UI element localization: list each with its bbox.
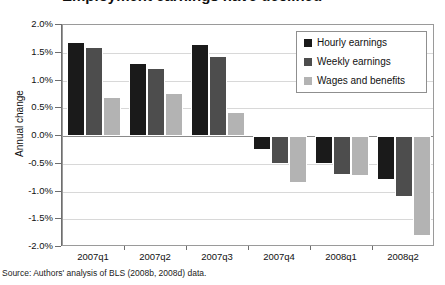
bar <box>377 136 395 180</box>
source-note: Source: Authors' analysis of BLS (2008b,… <box>2 268 206 278</box>
y-tick-label: -1.5% <box>28 213 53 223</box>
chart-title-text: Employment earnings have declined <box>62 0 322 4</box>
y-tick-label: 1.0% <box>31 75 53 85</box>
bar <box>227 112 245 136</box>
bar-group <box>67 25 121 247</box>
legend-item-label: Wages and benefits <box>317 76 405 86</box>
bar <box>67 42 85 136</box>
legend-item[interactable]: Weekly earnings <box>304 57 420 67</box>
bar <box>85 47 103 136</box>
y-tick-label: -2.0% <box>28 241 53 251</box>
x-tick-mark <box>372 246 373 250</box>
legend-swatch-icon <box>304 39 312 47</box>
legend-item[interactable]: Wages and benefits <box>304 76 420 86</box>
y-tick-mark <box>55 218 61 219</box>
y-tick-label: 2.0% <box>31 19 53 29</box>
x-tick-mark <box>310 246 311 250</box>
legend-item-label: Hourly earnings <box>317 38 387 48</box>
bar <box>271 136 289 164</box>
bar <box>147 68 165 136</box>
legend-item[interactable]: Hourly earnings <box>304 38 420 48</box>
bar <box>351 136 369 176</box>
bar <box>333 136 351 175</box>
bar-group <box>129 25 183 247</box>
bar <box>103 97 121 136</box>
bar <box>165 93 183 136</box>
legend-swatch-icon <box>304 77 312 85</box>
y-axis-line <box>61 24 62 246</box>
bar <box>395 136 413 197</box>
bar <box>209 56 227 136</box>
legend-item-label: Weekly earnings <box>317 57 391 67</box>
x-tick-label: 2008q2 <box>363 251 443 262</box>
bar <box>315 136 333 164</box>
bar <box>191 44 209 136</box>
y-tick-mark <box>55 163 61 164</box>
bar <box>289 136 307 183</box>
bar <box>413 136 431 236</box>
y-axis-title: Annual change <box>14 64 25 184</box>
x-tick-mark <box>248 246 249 250</box>
y-tick-label: -0.5% <box>28 158 53 168</box>
y-tick-mark <box>55 24 61 25</box>
y-tick-mark <box>55 246 61 247</box>
y-tick-mark <box>55 107 61 108</box>
legend-swatch-icon <box>304 58 312 66</box>
x-tick-mark <box>124 246 125 250</box>
y-tick-label: -1.0% <box>28 186 53 196</box>
y-tick-mark <box>55 80 61 81</box>
y-tick-mark <box>55 52 61 53</box>
bar-group <box>191 25 245 247</box>
y-tick-mark <box>55 135 61 136</box>
bar <box>253 136 271 150</box>
bar <box>129 63 147 136</box>
y-tick-mark <box>55 191 61 192</box>
chart-legend: Hourly earningsWeekly earningsWages and … <box>296 31 427 93</box>
x-tick-mark <box>186 246 187 250</box>
y-tick-label: 0.5% <box>31 102 53 112</box>
y-tick-label: 0.0% <box>31 130 53 140</box>
chart-title-clipped: Employment earnings have declined <box>0 0 445 8</box>
y-tick-label: 1.5% <box>31 47 53 57</box>
